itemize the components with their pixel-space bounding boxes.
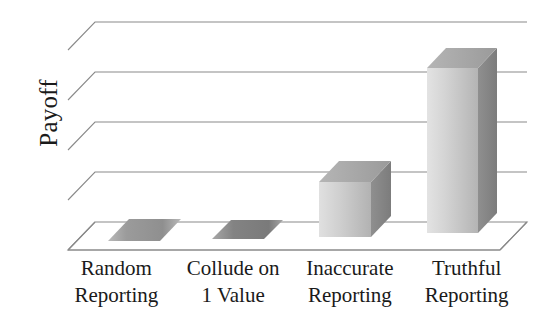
category-label-line1: Collude on: [175, 255, 292, 282]
category-label-line1: Truthful: [408, 255, 525, 282]
category-label-line2: 1 Value: [175, 282, 292, 309]
category-label-line2: Reporting: [292, 282, 409, 309]
bar-front-face: [427, 68, 478, 233]
bar-truthful-reporting: [427, 48, 497, 233]
gridline-4: [68, 22, 527, 50]
category-label-collude-on-1-value: Collude on 1 Value: [175, 255, 292, 317]
category-label-line1: Random: [58, 255, 175, 282]
x-axis-category-labels: Random Reporting Collude on 1 Value Inac…: [0, 255, 555, 317]
bar-front-face: [319, 182, 371, 237]
chart-figure: Payoff: [0, 0, 555, 320]
category-label-random-reporting: Random Reporting: [58, 255, 175, 317]
category-label-truthful-reporting: Truthful Reporting: [408, 255, 525, 317]
bar-side-face: [478, 48, 497, 233]
category-label-line2: Reporting: [408, 282, 525, 309]
bar-inaccurate-reporting: [319, 161, 391, 237]
category-label-line2: Reporting: [58, 282, 175, 309]
category-label-inaccurate-reporting: Inaccurate Reporting: [292, 255, 409, 317]
category-label-line1: Inaccurate: [292, 255, 409, 282]
